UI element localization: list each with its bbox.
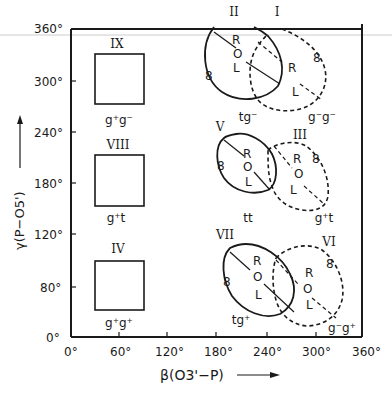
x-tick-300: 300° [302, 345, 331, 359]
box-IV-label: IV [111, 242, 125, 256]
svg-text:O: O [253, 270, 262, 284]
x-tick-120: 120° [155, 345, 184, 359]
svg-text:L: L [245, 175, 252, 189]
ellipse-I: I R L 8 g⁻g⁻ [250, 5, 336, 124]
svg-text:R: R [232, 33, 240, 47]
conformation-diagram: 360° 300° 240° 180° 120° 80° 0° γ(P−O5')… [0, 0, 392, 399]
svg-text:L: L [292, 85, 299, 99]
y-tick-80: 80° [40, 281, 61, 295]
box-IX-conformation: g⁺g⁻ [105, 113, 133, 127]
svg-text:O: O [243, 160, 252, 174]
ellipse-III-conformation: g⁺t [315, 211, 334, 225]
svg-text:R: R [253, 254, 261, 268]
ellipse-V-label: V [215, 120, 225, 134]
ellipse-III-label: III [293, 128, 307, 142]
ellipse-VII-conformation: tg⁺ [232, 313, 251, 327]
box-VIII: VIII g⁺t [95, 138, 144, 225]
box-IX-region [95, 54, 144, 104]
ellipse-II: II R O L 8 tg⁻ [205, 5, 282, 124]
x-axis-label-group: β(O3'−P) [160, 367, 280, 383]
box-IV-conformation: g⁺g⁺ [105, 316, 133, 330]
x-tick-180: 180° [204, 345, 233, 359]
svg-text:R: R [288, 61, 296, 75]
y-axis-label: γ(P−O5') [12, 191, 27, 250]
ellipse-VII-label: VII [215, 228, 234, 242]
box-VIII-region [95, 155, 144, 206]
x-tick-0: 0° [64, 345, 78, 359]
plot-frame [71, 24, 362, 337]
ellipse-VI-conformation: g⁻g⁺ [328, 321, 356, 335]
y-tick-240: 240° [34, 126, 63, 140]
svg-text:O: O [233, 47, 242, 61]
box-IV: IV g⁺g⁺ [95, 242, 144, 330]
arrow-right-icon [270, 372, 280, 378]
ellipse-II-conformation: tg⁻ [239, 110, 258, 124]
ellipse-VI-label: VI [321, 235, 336, 249]
ellipse-V: V R O L 8 tt [215, 120, 276, 225]
svg-text:8: 8 [313, 51, 321, 65]
y-tick-120: 120° [34, 228, 63, 242]
svg-text:L: L [255, 288, 262, 302]
y-tick-180: 180° [34, 177, 63, 191]
ellipse-I-label: I [275, 5, 280, 19]
svg-text:L: L [290, 183, 297, 197]
ellipse-V-conformation: tt [243, 211, 253, 225]
x-tick-360: 360° [352, 345, 381, 359]
box-IX: IX g⁺g⁻ [95, 37, 144, 127]
y-tick-0: 0° [46, 331, 60, 345]
svg-text:8: 8 [217, 159, 225, 173]
box-VIII-conformation: g⁺t [107, 211, 126, 225]
y-tick-300: 300° [34, 75, 63, 89]
svg-text:8: 8 [205, 69, 213, 83]
box-IV-region [95, 261, 144, 310]
y-axis-label-group: γ(P−O5') [12, 115, 27, 250]
ellipse-II-label: II [229, 5, 239, 19]
svg-text:O: O [303, 282, 312, 296]
y-tick-360: 360° [34, 22, 63, 36]
ellipse-II-contour [205, 27, 282, 99]
svg-text:8: 8 [223, 275, 231, 289]
svg-text:R: R [243, 147, 251, 161]
x-tick-240: 240° [253, 345, 282, 359]
svg-text:R: R [305, 266, 313, 280]
x-tick-60: 60° [110, 345, 131, 359]
y-axis-ticks: 360° 300° 240° 180° 120° 80° 0° [34, 22, 76, 345]
svg-text:L: L [233, 61, 240, 75]
ellipse-I-conformation: g⁻g⁻ [308, 110, 336, 124]
arrow-up-icon [17, 115, 23, 124]
box-VIII-label: VIII [106, 138, 130, 152]
x-axis-label: β(O3'−P) [160, 367, 224, 383]
ellipse-III: III R O L 8 g⁺t [268, 128, 334, 225]
svg-text:O: O [294, 167, 303, 181]
svg-text:8: 8 [326, 257, 334, 271]
svg-text:R: R [293, 152, 301, 166]
svg-text:8: 8 [312, 152, 320, 166]
ellipse-VI: VI R O L 8 g⁻g⁺ [273, 235, 356, 335]
box-IX-label: IX [110, 37, 124, 51]
svg-text:L: L [306, 298, 313, 312]
